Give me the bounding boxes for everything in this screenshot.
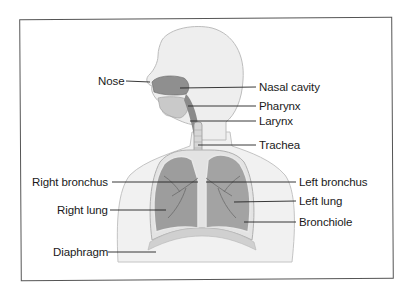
nasal-cavity-shape [152,76,189,95]
label-pharynx: Pharynx [259,100,301,112]
leader-nose [126,81,150,82]
label-right-lung: Right lung [57,204,108,216]
label-right-bronchus: Right bronchus [32,176,108,188]
label-nose: Nose [98,75,124,87]
label-bronchiole: Bronchiole [299,216,352,228]
label-left-bronchus: Left bronchus [299,176,367,188]
label-diaphragm: Diaphragm [53,246,108,258]
label-left-lung: Left lung [299,195,342,207]
label-larynx: Larynx [259,115,293,127]
label-nasal-cavity: Nasal cavity [259,81,320,93]
oral-cavity-shape [158,97,189,118]
label-trachea: Trachea [259,139,300,151]
